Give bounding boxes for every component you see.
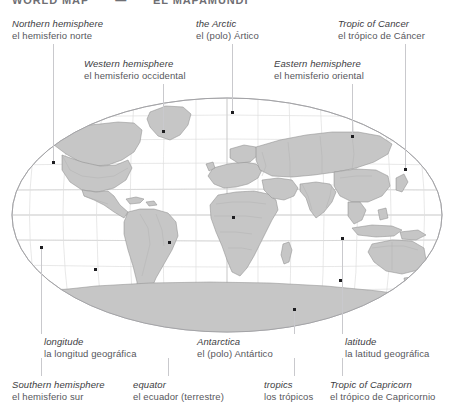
leader-line-eastern-hemisphere bbox=[352, 84, 353, 136]
leader-line-tropic-of-capricorn bbox=[342, 358, 343, 376]
leader-line-antarctica bbox=[294, 309, 295, 334]
callout-antarctica-spanish: el (polo) Antártico bbox=[197, 348, 273, 360]
callout-equator-spanish: el ecuador (terrestre) bbox=[133, 391, 224, 403]
land-philippines bbox=[378, 208, 388, 220]
leader-line-tropics bbox=[294, 358, 295, 376]
dot-southern-hemisphere bbox=[94, 268, 97, 271]
callout-tropic-of-cancer-english: Tropic of Cancer bbox=[338, 18, 425, 30]
page-title-english: WORLD MAP bbox=[12, 0, 89, 6]
callout-antarctica-english: Antarctica bbox=[197, 336, 273, 348]
page-title-separator: — bbox=[115, 0, 127, 6]
callout-tropic-of-cancer-spanish: el trópico de Cáncer bbox=[338, 30, 425, 42]
leader-line-latitude bbox=[342, 238, 343, 334]
callout-tropics-english: tropics bbox=[264, 379, 313, 391]
leader-line-southern-hemisphere bbox=[41, 358, 42, 376]
callout-northern-hemisphere-spanish: el hemisferio norte bbox=[12, 30, 103, 42]
callout-southern-hemisphere: Southern hemisphereel hemisferio sur bbox=[12, 379, 105, 403]
callout-northern-hemisphere: Northern hemisphereel hemisferio norte bbox=[12, 18, 103, 42]
callout-the-arctic-spanish: el (polo) Ártico bbox=[196, 30, 259, 42]
callout-tropics: tropicslos trópicos bbox=[264, 379, 313, 403]
dot-antarctica bbox=[293, 308, 296, 311]
callout-the-arctic-english: the Arctic bbox=[196, 18, 259, 30]
callout-tropic-of-cancer: Tropic of Cancerel trópico de Cáncer bbox=[338, 18, 425, 42]
world-map-diagram: WORLD MAP—EL MAPAMUNDI bbox=[0, 0, 454, 418]
callout-eastern-hemisphere-english: Eastern hemisphere bbox=[274, 58, 364, 70]
callout-western-hemisphere: Western hemisphereel hemisferio occident… bbox=[84, 58, 186, 82]
callout-equator: equatorel ecuador (terrestre) bbox=[133, 379, 224, 403]
world-map-graphic bbox=[0, 92, 454, 338]
dot-tropic-of-cancer bbox=[404, 168, 407, 171]
leader-line-western-hemisphere bbox=[163, 84, 164, 131]
leader-line-longitude bbox=[41, 247, 42, 334]
callout-latitude: latitudela latitud geográfica bbox=[345, 336, 430, 360]
callout-tropic-of-capricorn: Tropic of Capricornel trópico de Caprico… bbox=[330, 379, 435, 403]
dot-latitude bbox=[341, 237, 344, 240]
callout-longitude-english: longitude bbox=[44, 336, 137, 348]
page-title: WORLD MAP—EL MAPAMUNDI bbox=[12, 0, 248, 6]
leader-line-tropic-of-cancer bbox=[405, 44, 406, 169]
callout-the-arctic: the Arcticel (polo) Ártico bbox=[196, 18, 259, 42]
dot-tropics bbox=[339, 279, 342, 282]
callout-tropics-spanish: los trópicos bbox=[264, 391, 313, 403]
leader-line-the-arctic bbox=[232, 44, 233, 112]
callout-longitude-spanish: la longitud geográfica bbox=[44, 348, 137, 360]
callout-western-hemisphere-spanish: el hemisferio occidental bbox=[84, 70, 186, 82]
callout-tropic-of-capricorn-english: Tropic of Capricorn bbox=[330, 379, 435, 391]
callout-tropic-of-capricorn-spanish: el trópico de Capricornio bbox=[330, 391, 435, 403]
leader-line-equator bbox=[168, 358, 169, 376]
callout-southern-hemisphere-english: Southern hemisphere bbox=[12, 379, 105, 391]
callout-eastern-hemisphere: Eastern hemisphereel hemisferio oriental bbox=[274, 58, 364, 82]
land-new-zealand bbox=[433, 259, 444, 276]
dot-longitude bbox=[40, 246, 43, 249]
callout-equator-english: equator bbox=[133, 379, 224, 391]
leader-line-northern-hemisphere bbox=[53, 44, 54, 162]
dot-northern-hemisphere bbox=[52, 161, 55, 164]
callout-latitude-english: latitude bbox=[345, 336, 430, 348]
callout-southern-hemisphere-spanish: el hemisferio sur bbox=[12, 391, 105, 403]
dot-tropic-of-capricorn bbox=[232, 216, 235, 219]
callout-northern-hemisphere-english: Northern hemisphere bbox=[12, 18, 103, 30]
callout-latitude-spanish: la latitud geográfica bbox=[345, 348, 430, 360]
land-indonesia bbox=[352, 225, 402, 237]
callout-longitude: longitudela longitud geográfica bbox=[44, 336, 137, 360]
dot-the-arctic bbox=[231, 111, 234, 114]
dot-western-hemisphere bbox=[162, 130, 165, 133]
callout-antarctica: Antarcticael (polo) Antártico bbox=[197, 336, 273, 360]
page-title-spanish: EL MAPAMUNDI bbox=[153, 0, 248, 6]
callout-western-hemisphere-english: Western hemisphere bbox=[84, 58, 186, 70]
callout-eastern-hemisphere-spanish: el hemisferio oriental bbox=[274, 70, 364, 82]
dot-equator bbox=[168, 241, 171, 244]
dot-eastern-hemisphere bbox=[351, 135, 354, 138]
